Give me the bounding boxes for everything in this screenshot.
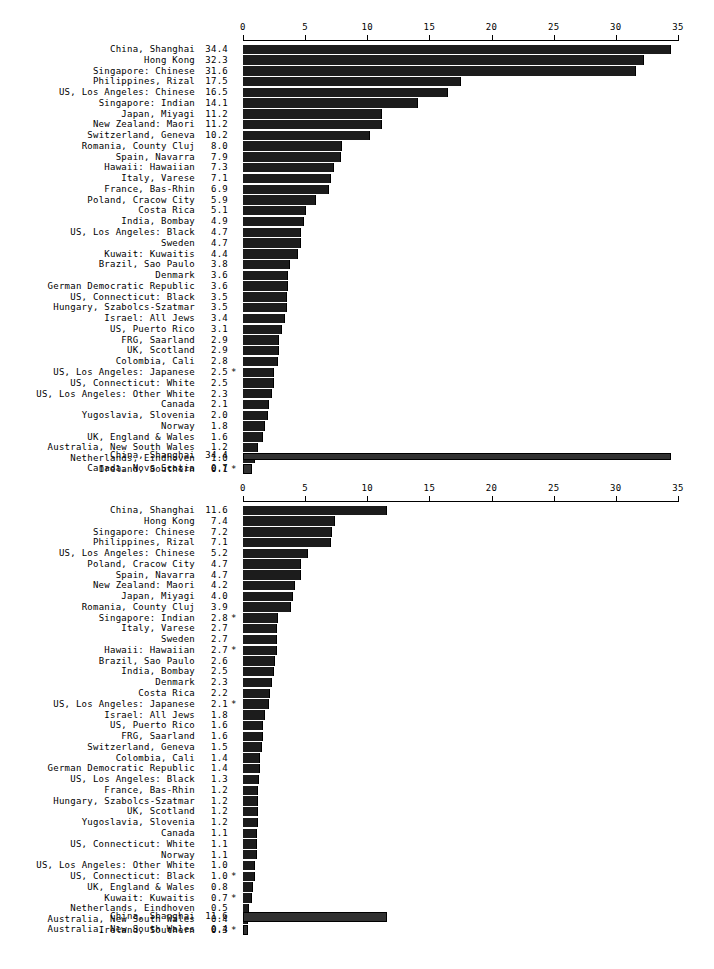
bar-row: Philippines, Rizal17.5 xyxy=(0,76,714,87)
category-label: France, Bas-Rhin xyxy=(104,184,195,195)
value-label: 1.0 xyxy=(197,860,228,871)
category-label: US, Connecticut: Black xyxy=(70,292,195,303)
bar xyxy=(243,753,260,762)
value-label: 34.4 xyxy=(197,44,228,55)
bar-row: Switzerland, Geneva1.5 xyxy=(0,742,714,753)
bar xyxy=(243,861,255,870)
bar-row: Spain, Navarra7.9 xyxy=(0,152,714,163)
bar-row: Colombia, Cali1.4 xyxy=(0,753,714,764)
axis-tick-label: 30 xyxy=(610,22,622,33)
category-label: Poland, Cracow City xyxy=(87,559,195,570)
bar xyxy=(243,120,382,129)
axis-tick-label: 10 xyxy=(361,22,373,33)
category-label: Singapore: Indian xyxy=(99,613,195,624)
bar xyxy=(243,77,461,86)
value-label: 1.6 xyxy=(197,720,228,731)
bar xyxy=(243,656,275,665)
bar-row: Singapore: Chinese31.6 xyxy=(0,66,714,77)
category-label: US, Los Angeles: Other White xyxy=(36,860,195,871)
axis-tick xyxy=(243,35,244,41)
bar xyxy=(243,109,382,118)
bar xyxy=(243,389,272,398)
bar-row: Hong Kong7.4 xyxy=(0,516,714,527)
value-label: 10.2 xyxy=(197,130,228,141)
category-label: Singapore: Chinese xyxy=(93,66,195,77)
value-label: 3.6 xyxy=(197,281,228,292)
bar xyxy=(243,271,288,280)
value-label: 2.1 xyxy=(197,399,228,410)
value-label: 1.4 xyxy=(197,753,228,764)
bar-row: US, Los Angeles: Black4.7 xyxy=(0,227,714,238)
value-label: 2.5 xyxy=(197,378,228,389)
value-label: 17.5 xyxy=(197,76,228,87)
value-label: 2.7 xyxy=(197,634,228,645)
value-label: 1.3 xyxy=(197,774,228,785)
bar-row: Colombia, Cali2.8 xyxy=(0,356,714,367)
category-label: Spain, Navarra xyxy=(116,152,195,163)
value-label: 7.9 xyxy=(197,152,228,163)
axis-tick xyxy=(305,496,306,502)
bar-row: France, Bas-Rhin1.2 xyxy=(0,785,714,796)
category-label: Hawaii: Hawaiian xyxy=(104,162,195,173)
bar xyxy=(243,796,258,805)
value-label: 1.2 xyxy=(197,806,228,817)
category-label: Japan, Miyagi xyxy=(121,109,195,120)
bar xyxy=(243,368,274,377)
bar-row: US, Los Angeles: Other White1.0 xyxy=(0,860,714,871)
axis-tick xyxy=(305,35,306,41)
value-label: 2.6 xyxy=(197,656,228,667)
axis-tick-label: 5 xyxy=(302,22,308,33)
bar xyxy=(243,850,257,859)
summary-bar xyxy=(243,912,387,922)
bar-row: Yugoslavia, Slovenia1.2 xyxy=(0,817,714,828)
category-label: Hawaii: Hawaiian xyxy=(104,645,195,656)
value-label: 0.7 xyxy=(197,893,228,904)
category-label: Singapore: Chinese xyxy=(93,527,195,538)
category-label: India, Bombay xyxy=(121,666,195,677)
axis-tick-label: 35 xyxy=(672,483,684,494)
value-label: 5.1 xyxy=(197,205,228,216)
category-label: Canada xyxy=(161,399,195,410)
category-label: US, Los Angeles: Black xyxy=(70,774,195,785)
axis-tick xyxy=(429,496,430,502)
value-label: 1.8 xyxy=(197,710,228,721)
category-label: Kuwait: Kuwaitis xyxy=(104,249,195,260)
bar-row: Philippines, Rizal7.1 xyxy=(0,537,714,548)
bar xyxy=(243,357,278,366)
value-label: 4.7 xyxy=(197,559,228,570)
value-label: 7.2 xyxy=(197,527,228,538)
value-label: 4.4 xyxy=(197,249,228,260)
bar-row: Denmark3.6 xyxy=(0,270,714,281)
bar xyxy=(243,624,277,633)
footnote-asterisk: * xyxy=(231,367,236,378)
value-label: 2.5 xyxy=(197,666,228,677)
bar xyxy=(243,98,418,107)
category-label: Philippines, Rizal xyxy=(93,537,195,548)
summary-row: China, Shanghai11.6 xyxy=(0,910,714,923)
summary-row: Australia, New South Wales0.4 xyxy=(0,923,714,936)
value-label: 1.1 xyxy=(197,828,228,839)
category-label: Hungary, Szabolcs-Szatmar xyxy=(53,796,195,807)
bar-row: New Zealand: Maori4.2 xyxy=(0,580,714,591)
category-label: Romania, County Cluj xyxy=(82,141,195,152)
axis-tick xyxy=(367,496,368,502)
value-label: 2.0 xyxy=(197,410,228,421)
bar xyxy=(243,527,332,536)
bar-rows-bottom-chart: China, Shanghai11.6Hong Kong7.4Singapore… xyxy=(0,505,714,936)
category-label: US, Los Angeles: Black xyxy=(70,227,195,238)
bar-row: China, Shanghai11.6 xyxy=(0,505,714,516)
category-label: UK, England & Wales xyxy=(87,432,195,443)
value-label: 2.2 xyxy=(197,688,228,699)
bar xyxy=(243,185,329,194)
category-label: Israel: All Jews xyxy=(104,313,195,324)
bar-row: Hawaii: Hawaiian7.3 xyxy=(0,162,714,173)
bar-row: Singapore: Indian14.1 xyxy=(0,98,714,109)
category-label: China, Shanghai xyxy=(110,505,195,516)
category-label: US, Los Angeles: Chinese xyxy=(59,548,195,559)
bar xyxy=(243,689,270,698)
axis-tick-label: 15 xyxy=(424,483,436,494)
category-label: US, Los Angeles: Other White xyxy=(36,389,195,400)
value-label: 4.0 xyxy=(197,591,228,602)
axis-tick-label: 25 xyxy=(548,483,560,494)
category-label: US, Connecticut: White xyxy=(70,839,195,850)
